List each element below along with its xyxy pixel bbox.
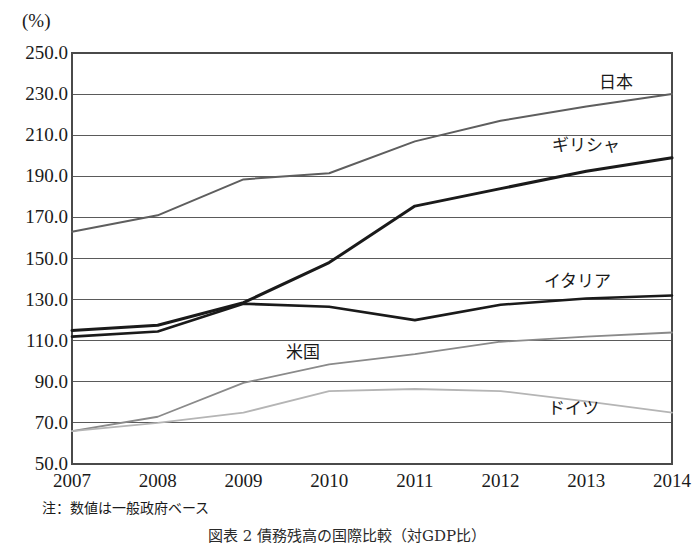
y-tick-label: 250.0	[2, 42, 68, 64]
y-tick-label: 190.0	[2, 165, 68, 187]
x-tick-label: 2009	[224, 470, 262, 492]
y-tick-label: 230.0	[2, 83, 68, 105]
y-tick-label: 70.0	[2, 412, 68, 434]
x-tick-label: 2013	[567, 470, 605, 492]
y-tick-label: 210.0	[2, 124, 68, 146]
x-tick-label: 2012	[482, 470, 520, 492]
figure-caption: 図表 2 債務残高の国際比較（対GDP比）	[208, 524, 486, 545]
series-label-米国: 米国	[286, 337, 320, 362]
x-tick-label: 2010	[310, 470, 348, 492]
x-tick-label: 2011	[396, 470, 433, 492]
series-line-0	[72, 94, 672, 232]
y-tick-label: 170.0	[2, 206, 68, 228]
series-label-イタリア: イタリア	[544, 267, 611, 292]
series-label-ドイツ: ドイツ	[548, 394, 599, 419]
y-axis-tick-labels: 250.0230.0210.0190.0170.0150.0130.0110.0…	[0, 0, 68, 533]
x-tick-label: 2007	[53, 470, 91, 492]
y-tick-label: 130.0	[2, 289, 68, 311]
chart-note: 注：数値は一般政府ベース	[42, 497, 209, 517]
y-tick-label: 150.0	[2, 248, 68, 270]
series-label-日本: 日本	[599, 67, 633, 92]
x-tick-label: 2014	[653, 470, 691, 492]
series-line-2	[72, 295, 672, 336]
x-tick-label: 2008	[139, 470, 177, 492]
y-tick-label: 110.0	[2, 330, 68, 352]
series-label-ギリシャ: ギリシャ	[552, 131, 620, 156]
y-tick-label: 90.0	[2, 371, 68, 393]
series-line-1	[72, 158, 672, 331]
